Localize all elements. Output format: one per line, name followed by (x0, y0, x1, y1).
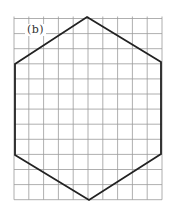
figure-label: (b) (25, 24, 46, 36)
square-grid (14, 17, 162, 200)
